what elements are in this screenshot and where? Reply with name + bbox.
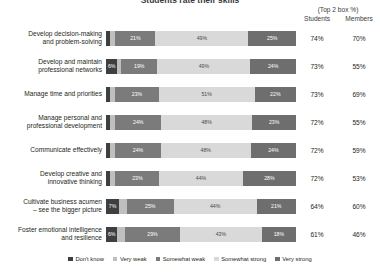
- row-category-label: Communicate effectively: [0, 146, 106, 154]
- bar-segment[interactable]: 44%: [174, 199, 257, 214]
- row-label-line: Manage time and priorities: [0, 90, 102, 98]
- bar-segment[interactable]: 49%: [155, 31, 248, 46]
- row-label-line: Cultivate business acumen: [0, 198, 102, 206]
- stacked-bar: 6%19%49%24%: [106, 59, 296, 74]
- members-value: 59%: [338, 147, 380, 154]
- bar-segment[interactable]: 24%: [251, 143, 296, 158]
- bar-segment[interactable]: 25%: [127, 199, 174, 214]
- bar-segment[interactable]: 51%: [159, 87, 255, 102]
- annotation-column-headers: Students Members: [296, 15, 380, 23]
- legend-swatch-icon: [275, 257, 280, 262]
- students-value: 61%: [296, 231, 338, 238]
- row-label-line: Foster emotional intelligence: [0, 226, 102, 234]
- legend-label: Somewhat weak: [163, 256, 206, 262]
- chart-row: Develop creative andinnovative thinking2…: [0, 164, 380, 192]
- legend-label: Very strong: [282, 256, 311, 262]
- row-label-line: – see the bigger picture: [0, 206, 102, 214]
- members-value: 46%: [338, 231, 380, 238]
- bar-segment[interactable]: 23%: [252, 115, 296, 130]
- bar-segment[interactable]: 43%: [180, 227, 262, 242]
- row-category-label: Manage time and priorities: [0, 90, 106, 98]
- students-value: 64%: [296, 203, 338, 210]
- legend-item[interactable]: Somewhat weak: [156, 256, 206, 262]
- bar-segment[interactable]: 7%: [106, 199, 119, 214]
- members-value: 55%: [338, 63, 380, 70]
- bar-segment[interactable]: 24%: [115, 115, 161, 130]
- students-value: 74%: [296, 35, 338, 42]
- legend-swatch-icon: [214, 257, 219, 262]
- bar-segment[interactable]: 23%: [115, 87, 158, 102]
- bar-segment[interactable]: 21%: [257, 199, 297, 214]
- bar-segment[interactable]: 6%: [106, 59, 117, 74]
- bar-segment[interactable]: 48%: [161, 143, 251, 158]
- row-label-line: professional networks: [0, 66, 102, 74]
- bar-segment[interactable]: 19%: [121, 59, 157, 74]
- chart-row: Develop decision-makingand problem-solvi…: [0, 24, 380, 52]
- legend-item[interactable]: Very strong: [275, 256, 311, 262]
- bar-segment[interactable]: 18%: [262, 227, 296, 242]
- row-top2box-values: 73%69%: [296, 91, 380, 98]
- students-value: 72%: [296, 175, 338, 182]
- row-top2box-values: 72%55%: [296, 119, 380, 126]
- chart-row: Foster emotional intelligenceand resilie…: [0, 220, 380, 248]
- bar-segment[interactable]: 25%: [248, 31, 296, 46]
- row-top2box-values: 61%46%: [296, 231, 380, 238]
- members-value: 53%: [338, 175, 380, 182]
- stacked-bar: 21%49%25%: [106, 31, 296, 46]
- stacked-bar: 23%44%28%: [106, 171, 296, 186]
- top-2-box-note: (Top 2 box %): [296, 6, 380, 14]
- row-top2box-values: 74%70%: [296, 35, 380, 42]
- chart-row: Develop and maintainprofessional network…: [0, 52, 380, 80]
- bar-segment[interactable]: 44%: [159, 171, 243, 186]
- row-label-line: and resilience: [0, 234, 102, 242]
- stacked-bar-chart: Students rate their skills (Top 2 box %)…: [0, 0, 380, 277]
- legend-label: Very weak: [120, 256, 147, 262]
- members-value: 60%: [338, 203, 380, 210]
- students-value: 72%: [296, 119, 338, 126]
- legend-item[interactable]: Somewhat strong: [214, 256, 266, 262]
- row-label-line: professional development: [0, 122, 102, 130]
- bar-segment[interactable]: 6%: [106, 227, 117, 242]
- legend-label: Don't know: [75, 256, 104, 262]
- row-category-label: Develop creative andinnovative thinking: [0, 170, 106, 185]
- column-header-students: Students: [296, 15, 338, 23]
- stacked-bar: 23%51%22%: [106, 87, 296, 102]
- chart-rows: Develop decision-makingand problem-solvi…: [0, 24, 380, 248]
- row-top2box-values: 73%55%: [296, 63, 380, 70]
- bar-segment[interactable]: [119, 199, 127, 214]
- bar-segment[interactable]: 24%: [115, 143, 160, 158]
- legend-swatch-icon: [113, 257, 118, 262]
- bar-segment[interactable]: 22%: [255, 87, 296, 102]
- row-top2box-values: 64%60%: [296, 203, 380, 210]
- bar-segment[interactable]: 48%: [161, 115, 252, 130]
- legend-item[interactable]: Don't know: [68, 256, 104, 262]
- legend-item[interactable]: Very weak: [113, 256, 147, 262]
- legend-swatch-icon: [68, 257, 73, 262]
- chart-row: Communicate effectively24%48%24%72%59%: [0, 136, 380, 164]
- chart-legend: Don't knowVery weakSomewhat weakSomewhat…: [0, 256, 380, 262]
- bar-segment[interactable]: 49%: [157, 59, 250, 74]
- row-label-line: Develop creative and: [0, 170, 102, 178]
- row-category-label: Manage personal andprofessional developm…: [0, 114, 106, 129]
- bar-segment[interactable]: 23%: [115, 171, 159, 186]
- members-value: 69%: [338, 91, 380, 98]
- students-value: 72%: [296, 147, 338, 154]
- members-value: 55%: [338, 119, 380, 126]
- legend-label: Somewhat strong: [221, 256, 266, 262]
- chart-row: Manage time and priorities23%51%22%73%69…: [0, 80, 380, 108]
- stacked-bar: 24%48%24%: [106, 143, 296, 158]
- students-value: 73%: [296, 63, 338, 70]
- row-top2box-values: 72%59%: [296, 147, 380, 154]
- row-top2box-values: 72%53%: [296, 175, 380, 182]
- row-category-label: Develop decision-makingand problem-solvi…: [0, 30, 106, 45]
- bar-segment[interactable]: [117, 227, 125, 242]
- stacked-bar: 24%48%23%: [106, 115, 296, 130]
- bar-segment[interactable]: 28%: [243, 171, 296, 186]
- bar-segment[interactable]: 24%: [250, 59, 296, 74]
- row-label-line: Develop decision-making: [0, 30, 102, 38]
- bar-segment[interactable]: 21%: [115, 31, 155, 46]
- bar-segment[interactable]: 29%: [125, 227, 180, 242]
- legend-swatch-icon: [156, 257, 161, 262]
- row-label-line: and problem-solving: [0, 38, 102, 46]
- members-value: 70%: [338, 35, 380, 42]
